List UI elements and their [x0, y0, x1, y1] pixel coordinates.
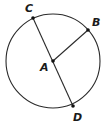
diagram-svg: C B A D — [0, 0, 106, 124]
label-a: A — [39, 61, 49, 74]
point-c — [31, 16, 35, 20]
point-d — [71, 104, 75, 108]
label-b: B — [92, 16, 100, 29]
point-b — [86, 28, 90, 32]
radius-ab — [53, 30, 88, 61]
point-a — [51, 59, 55, 63]
label-c: C — [25, 2, 33, 15]
circle-diagram: C B A D — [0, 0, 106, 124]
label-d: D — [73, 111, 82, 124]
